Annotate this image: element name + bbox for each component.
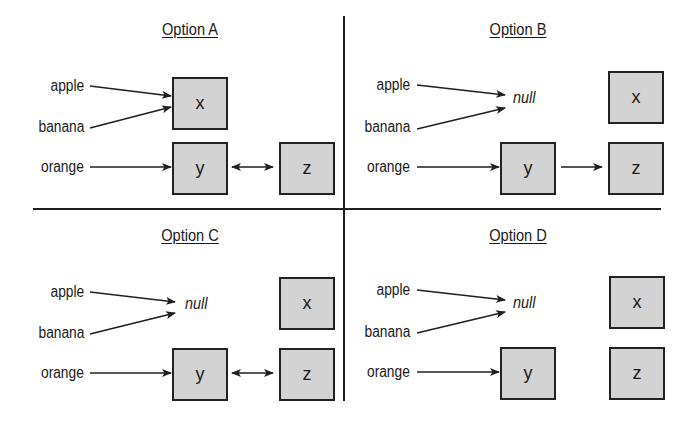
null-label: null xyxy=(513,294,535,312)
box-x: x xyxy=(172,77,228,130)
label-orange: orange xyxy=(367,363,410,381)
box-x: x xyxy=(279,277,335,330)
label-banana: banana xyxy=(38,324,84,342)
panel-title: Option B xyxy=(466,20,569,40)
label-orange: orange xyxy=(41,364,84,382)
box-y: y xyxy=(500,142,556,195)
box-y: y xyxy=(172,142,228,195)
panel-title: Option D xyxy=(466,226,569,246)
box-z: z xyxy=(279,348,335,401)
connector-layer xyxy=(0,0,690,424)
label-banana: banana xyxy=(38,118,84,136)
option-d-arrows xyxy=(417,290,505,372)
box-x: x xyxy=(608,71,664,124)
box-x: x xyxy=(609,276,665,329)
diagram: Option A apple banana orange x y z Optio… xyxy=(0,0,690,424)
panel-title: Option C xyxy=(138,226,241,246)
label-banana: banana xyxy=(364,118,410,136)
label-orange: orange xyxy=(41,158,84,176)
label-banana: banana xyxy=(364,323,410,341)
label-orange: orange xyxy=(367,158,410,176)
box-y: y xyxy=(500,347,556,400)
box-y: y xyxy=(172,348,228,401)
box-z: z xyxy=(609,347,665,400)
label-apple: apple xyxy=(50,283,84,301)
label-apple: apple xyxy=(50,77,84,95)
box-z: z xyxy=(608,142,664,195)
label-apple: apple xyxy=(376,281,410,299)
label-apple: apple xyxy=(376,76,410,94)
panel-title: Option A xyxy=(138,20,241,40)
null-label: null xyxy=(513,89,535,107)
null-label: null xyxy=(185,295,207,313)
box-z: z xyxy=(279,142,335,195)
